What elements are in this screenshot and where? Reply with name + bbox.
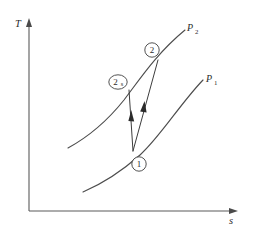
temperature-axis-arrowhead xyxy=(26,18,32,27)
entropy-axis-label: s xyxy=(229,215,233,226)
isobar-p1-label-group: P 1 xyxy=(205,73,217,86)
isobar-p1-label-subscript: 1 xyxy=(214,79,217,86)
isobar-p1-label: P xyxy=(205,73,212,84)
isobar-p2-label-subscript: 2 xyxy=(195,28,199,35)
temperature-axis-label: T xyxy=(15,18,22,29)
process-1-to-2s-arrowhead xyxy=(128,110,134,121)
isobar-p1-curve xyxy=(83,80,203,192)
state-point-2-label: 2 xyxy=(150,45,155,55)
isobar-p2-label: P xyxy=(186,22,193,33)
process-1-to-2s-group xyxy=(128,90,134,151)
process-1-to-2-line xyxy=(133,60,158,151)
state-point-2s-ring xyxy=(109,75,127,89)
state-point-2s-label: 2 xyxy=(113,77,118,87)
isobar-p2-label-group: P 2 xyxy=(186,22,199,35)
isobar-p2-curve xyxy=(68,30,185,148)
state-point-1-marker: 1 xyxy=(132,157,146,171)
state-point-2-marker: 2 xyxy=(145,43,159,57)
entropy-axis-arrowhead xyxy=(229,208,238,214)
state-point-2s-marker: 2 s xyxy=(109,75,127,89)
ts-diagram-figure: T s P 2 P 1 2 xyxy=(0,0,253,231)
ts-diagram-canvas: T s P 2 P 1 2 xyxy=(0,0,253,231)
process-1-to-2-group xyxy=(133,60,158,151)
state-point-1-label: 1 xyxy=(137,159,142,169)
